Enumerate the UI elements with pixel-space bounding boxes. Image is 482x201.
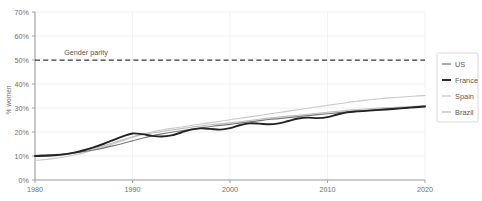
x-tick-label: 1980	[27, 185, 43, 194]
y-axis-title: % women	[5, 85, 12, 114]
y-tick-label: 20%	[15, 128, 30, 137]
y-tick-label: 60%	[15, 32, 30, 41]
legend-label-us[interactable]: US	[455, 60, 465, 69]
gender-parity-label: Gender parity	[64, 48, 108, 57]
x-tick-label: 1990	[125, 185, 141, 194]
y-axis: 0%10%20%30%40%50%60%70%	[15, 8, 35, 185]
x-tick-label: 2010	[320, 185, 336, 194]
line-chart: 0%10%20%30%40%50%60%70% 1980199020002010…	[0, 0, 482, 201]
y-tick-label: 70%	[15, 8, 30, 17]
y-tick-label: 40%	[15, 80, 30, 89]
vertical-gridlines	[133, 12, 426, 180]
x-axis: 19801990200020102020	[27, 180, 433, 194]
annotations: Gender parity	[64, 48, 108, 57]
x-tick-label: 2000	[222, 185, 238, 194]
chart-container: 0%10%20%30%40%50%60%70% 1980199020002010…	[0, 0, 482, 201]
y-tick-label: 30%	[15, 104, 30, 113]
legend-label-france[interactable]: France	[455, 76, 478, 85]
legend[interactable]: USFranceSpainBrazil	[437, 53, 478, 122]
legend-label-spain[interactable]: Spain	[455, 92, 474, 101]
y-tick-label: 10%	[15, 152, 30, 161]
x-tick-label: 2020	[417, 185, 433, 194]
legend-label-brazil[interactable]: Brazil	[455, 108, 474, 117]
y-tick-label: 50%	[15, 56, 30, 65]
y-tick-label: 0%	[19, 176, 30, 185]
